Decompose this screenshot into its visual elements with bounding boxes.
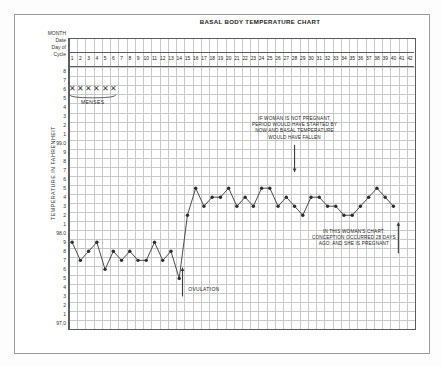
data-point [219, 196, 222, 199]
menses-brace [69, 94, 116, 97]
y-tick-label: 5 [63, 185, 66, 191]
menses-x-mark: ✕ [93, 85, 100, 93]
y-tick-label: 6 [63, 266, 66, 272]
data-point [95, 241, 98, 244]
data-point [351, 214, 354, 217]
row-label-date: Date [24, 37, 66, 44]
y-tick-label: 97.0 [56, 320, 66, 326]
data-point [70, 241, 73, 244]
data-point [342, 214, 345, 217]
data-point [375, 186, 378, 189]
row-label-stack: MONTH Date Day of Cycle [24, 30, 66, 58]
data-point [161, 259, 164, 262]
y-tick-label: 4 [63, 284, 66, 290]
period-expected-arrow [293, 145, 297, 172]
y-tick-label: 5 [63, 275, 66, 281]
y-tick-label: 7 [63, 167, 66, 173]
data-point [128, 250, 131, 253]
data-point [392, 205, 395, 208]
data-point [276, 205, 279, 208]
data-point [318, 196, 321, 199]
menses-x-mark: ✕ [69, 85, 76, 93]
y-tick-label: 7 [63, 77, 66, 83]
y-tick-label: 6 [63, 176, 66, 182]
data-point [383, 196, 386, 199]
y-tick-label: 98.0 [56, 230, 66, 236]
data-point [252, 205, 255, 208]
menses-x-mark: ✕ [85, 85, 92, 93]
ovulation-arrow [181, 268, 185, 297]
data-point [87, 250, 90, 253]
y-tick-label: 3 [63, 203, 66, 209]
y-tick-label: 3 [63, 293, 66, 299]
data-point [285, 196, 288, 199]
y-tick-label: 9 [63, 149, 66, 155]
page-title: BASAL BODY TEMPERATURE CHART [120, 18, 400, 25]
data-point [359, 205, 362, 208]
y-tick-label: 1 [63, 311, 66, 317]
y-tick-label: 9 [63, 239, 66, 245]
data-point [112, 250, 115, 253]
menses-label: MENSES [81, 99, 105, 105]
data-point [103, 268, 106, 271]
y-tick-label: 6 [63, 86, 66, 92]
y-tick-label: 2 [63, 212, 66, 218]
y-tick-label: 5 [63, 95, 66, 101]
data-point [145, 259, 148, 262]
y-tick-label: 99.0 [56, 140, 66, 146]
y-tick-label: 2 [63, 302, 66, 308]
annotation-period-expected: IF WOMAN IS NOT PREGNANT, PERIOD WOULD H… [251, 116, 339, 141]
data-point [260, 186, 263, 189]
y-tick-label: 1 [63, 131, 66, 137]
y-tick-label: 8 [63, 68, 66, 74]
data-point [326, 205, 329, 208]
pregnancy-arrow [396, 222, 400, 253]
temperature-series [68, 38, 414, 328]
ovulation-label: OVULATION [188, 286, 219, 292]
data-point [153, 241, 156, 244]
y-tick-label: 4 [63, 104, 66, 110]
data-point [334, 205, 337, 208]
row-label-day-of: Day of [24, 44, 66, 51]
y-tick-label: 8 [63, 158, 66, 164]
menses-x-mark: ✕ [102, 85, 109, 93]
data-point [309, 196, 312, 199]
data-point [186, 214, 189, 217]
data-point [235, 205, 238, 208]
data-point [243, 196, 246, 199]
data-point [202, 205, 205, 208]
data-point [301, 214, 304, 217]
data-layer: ✕✕✕✕✕✕MENSESOVULATIONIF WOMAN IS NOT PRE… [68, 38, 414, 328]
y-tick-label: 8 [63, 248, 66, 254]
data-point [120, 259, 123, 262]
y-tick-label: 2 [63, 122, 66, 128]
data-point [210, 196, 213, 199]
data-point [136, 259, 139, 262]
data-point [178, 277, 181, 280]
row-label-month: MONTH [24, 30, 66, 37]
y-tick-label: 1 [63, 221, 66, 227]
menses-x-mark: ✕ [77, 85, 84, 93]
data-point [227, 186, 230, 189]
screenshot-root: BASAL BODY TEMPERATURE CHART MONTH Date … [0, 0, 442, 366]
row-label-cycle: Cycle [24, 51, 66, 58]
y-tick-label: 7 [63, 257, 66, 263]
y-tick-label: 4 [63, 194, 66, 200]
data-point [79, 259, 82, 262]
data-point [268, 186, 271, 189]
menses-x-mark: ✕ [110, 85, 117, 93]
y-axis-title: TEMPERATURE IN FAHRENHEIT [50, 98, 56, 248]
annotation-pregnancy: IN THIS WOMAN'S CHART, CONCEPTION OCCURR… [311, 229, 397, 248]
data-point [194, 186, 197, 189]
y-tick-label: 3 [63, 113, 66, 119]
data-point [169, 250, 172, 253]
data-point [367, 196, 370, 199]
data-point [293, 205, 296, 208]
